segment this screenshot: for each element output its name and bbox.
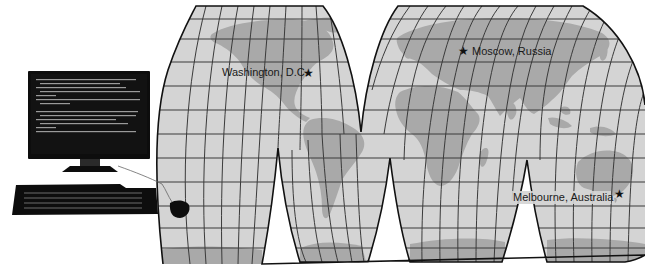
monitor-screen	[31, 74, 147, 154]
location-washington-dc: Washington, D.C. ★	[222, 66, 314, 80]
star-icon: ★	[303, 66, 314, 80]
greenland	[337, 10, 360, 31]
melbourne-label: Melbourne, Australia	[513, 191, 614, 203]
washington-dc-label: Washington, D.C.	[222, 66, 308, 78]
keyboard	[12, 184, 158, 215]
monitor	[28, 71, 150, 172]
diagram-scene: Washington, D.C. ★ ★ Moscow, Russia Melb…	[0, 0, 645, 266]
world-map: Washington, D.C. ★ ★ Moscow, Russia Melb…	[150, 0, 645, 266]
star-icon: ★	[614, 187, 625, 201]
star-icon: ★	[458, 44, 469, 58]
location-moscow: ★ Moscow, Russia	[458, 44, 552, 58]
moscow-label: Moscow, Russia	[472, 45, 552, 57]
monitor-base	[62, 166, 118, 172]
